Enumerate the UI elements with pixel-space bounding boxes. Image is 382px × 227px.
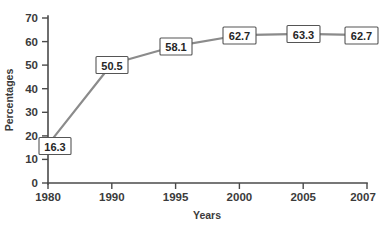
y-axis-group: 0 10 20 30 40 50 60 70 Percentages: [3, 12, 48, 189]
x-axis-group: 1980 1990 1995 2000 2005 2007 Years: [35, 183, 376, 221]
y-tick-label-0: 0: [32, 177, 38, 189]
x-tick-label-2007: 2007: [350, 191, 376, 203]
y-axis-title: Percentages: [3, 69, 15, 132]
y-tick-label-30: 30: [25, 106, 38, 118]
data-label-text-1990: 50.5: [101, 60, 122, 72]
data-label-1995: 58.1: [160, 38, 192, 55]
data-label-1980: 16.3: [39, 138, 71, 155]
line-chart: 0 10 20 30 40 50 60 70 Percentages 1980 …: [0, 0, 382, 227]
data-label-2007: 62.7: [345, 27, 378, 44]
data-line-percentages: [48, 34, 367, 145]
y-tick-label-70: 70: [25, 12, 38, 24]
y-tick-label-10: 10: [25, 153, 38, 165]
data-label-text-1995: 58.1: [165, 41, 186, 53]
x-tick-label-1995: 1995: [163, 191, 189, 203]
y-tick-label-40: 40: [25, 83, 38, 95]
data-series-group: [48, 34, 367, 145]
data-label-text-2000: 62.7: [229, 30, 250, 42]
data-label-2000: 62.7: [223, 27, 256, 44]
data-label-2005: 63.3: [287, 26, 320, 43]
x-tick-label-2005: 2005: [290, 191, 316, 203]
chart-container: 0 10 20 30 40 50 60 70 Percentages 1980 …: [0, 0, 382, 227]
x-tick-label-1990: 1990: [99, 191, 125, 203]
x-axis-title: Years: [193, 209, 221, 221]
y-tick-label-60: 60: [25, 36, 38, 48]
data-label-text-1980: 16.3: [44, 141, 65, 153]
data-label-1990: 50.5: [96, 57, 128, 74]
y-tick-label-20: 20: [25, 130, 38, 142]
data-label-text-2005: 63.3: [293, 29, 314, 41]
data-label-text-2007: 62.7: [351, 30, 372, 42]
x-tick-label-1980: 1980: [35, 191, 61, 203]
x-tick-label-2000: 2000: [227, 191, 253, 203]
y-tick-label-50: 50: [25, 59, 38, 71]
